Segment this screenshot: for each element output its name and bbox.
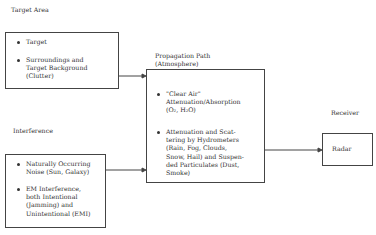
target-item: Target — [26, 38, 47, 46]
bullet-icon — [17, 41, 20, 44]
em-interference-item: EM Interference, both Intentional (Jammi… — [26, 185, 90, 218]
interference-box: Naturally Occurring Noise (Sun, Galaxy) … — [5, 154, 106, 228]
receiver-title: Receiver — [331, 109, 359, 117]
target-area-box: Target Surroundings and Target Backgroun… — [5, 32, 119, 89]
radar-box: Radar — [322, 133, 373, 166]
interference-title: Interference — [13, 127, 53, 135]
bullet-icon — [17, 163, 20, 166]
bullet-icon — [157, 93, 160, 96]
bullet-icon — [17, 59, 20, 62]
clear-air-item: "Clear Air" Attenuation/Absorption (O₂, … — [166, 90, 241, 115]
natural-noise-item: Naturally Occurring Noise (Sun, Galaxy) — [26, 160, 91, 176]
radar-label: Radar — [332, 145, 351, 153]
propagation-title: Propagation Path (Atmosphere) — [155, 52, 210, 68]
bullet-icon — [157, 131, 160, 134]
propagation-box: "Clear Air" Attenuation/Absorption (O₂, … — [146, 69, 265, 183]
hydrometers-item: Attenuation and Scat- tering by Hydromet… — [166, 128, 244, 177]
target-area-title: Target Area — [11, 6, 49, 14]
bullet-icon — [17, 188, 20, 191]
surroundings-item: Surroundings and Target Background (Clut… — [26, 56, 87, 81]
